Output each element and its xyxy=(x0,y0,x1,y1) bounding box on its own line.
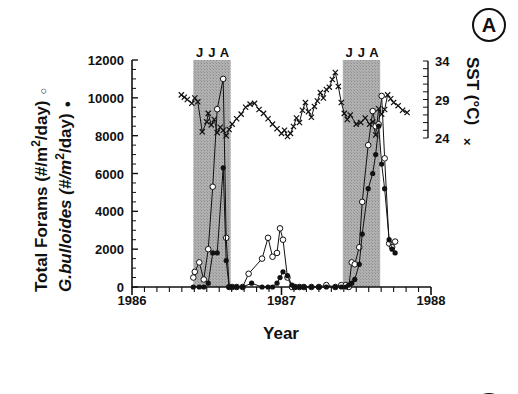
x-marker xyxy=(315,98,320,103)
x-marker xyxy=(239,112,244,117)
x-tick-label: 1986 xyxy=(118,293,147,308)
y-tick-label: 4000 xyxy=(95,204,124,219)
y-tick-label: 6000 xyxy=(95,167,124,182)
filled-circle-marker xyxy=(201,284,206,289)
right-tick-label: 29 xyxy=(435,93,449,108)
open-circle-marker xyxy=(246,271,252,277)
x-tick-label: 1988 xyxy=(417,293,446,308)
x-marker xyxy=(303,100,308,105)
month-label: J xyxy=(345,45,352,60)
filled-circle-marker xyxy=(393,250,398,255)
open-circle-marker xyxy=(277,226,283,232)
y-tick-label: 10000 xyxy=(88,91,124,106)
filled-circle-marker xyxy=(274,281,279,286)
x-marker xyxy=(327,85,332,90)
filled-circle-marker xyxy=(357,262,362,267)
filled-circle-marker xyxy=(265,284,270,289)
filled-circle-marker xyxy=(333,284,338,289)
open-circle-marker xyxy=(280,237,286,243)
open-circle-marker xyxy=(370,108,376,114)
filled-circle-marker xyxy=(240,284,245,289)
left-y-axis: 020004000600080001000012000 xyxy=(88,53,138,295)
filled-circle-marker xyxy=(191,284,196,289)
open-circle-marker xyxy=(259,256,265,262)
filled-circle-marker xyxy=(270,284,275,289)
filled-circle-marker xyxy=(360,231,365,236)
open-circle-marker xyxy=(265,235,271,241)
x-axis: 198619871988 xyxy=(118,287,446,308)
month-label: J xyxy=(196,45,203,60)
open-circle-marker xyxy=(210,184,216,190)
panel-label-a: A xyxy=(473,9,505,41)
open-circle-marker xyxy=(392,239,398,245)
filled-circle-marker xyxy=(280,269,285,274)
x-marker xyxy=(282,128,287,133)
open-circle-marker xyxy=(190,275,196,281)
x-tick-label: 1987 xyxy=(267,293,296,308)
month-labels: JJAJJA xyxy=(196,45,379,60)
right-tick-label: 34 xyxy=(435,54,450,69)
open-circle-marker xyxy=(220,76,226,82)
open-circle-marker xyxy=(223,235,229,241)
figure-panel-a: JJAJJA 020004000600080001000012000 19861… xyxy=(0,0,518,394)
filled-circle-marker xyxy=(373,152,378,157)
open-circle-marker xyxy=(192,269,198,275)
x-marker xyxy=(388,96,393,101)
filled-circle-marker xyxy=(382,186,387,191)
filled-circle-marker xyxy=(324,284,329,289)
month-label: J xyxy=(358,45,365,60)
y-tick-label: 8000 xyxy=(95,129,124,144)
month-label: A xyxy=(220,45,230,60)
filled-circle-marker xyxy=(339,284,344,289)
open-circle-marker-icon: ○ xyxy=(37,88,49,95)
right-tick-label: 24 xyxy=(435,131,450,146)
y-axis-title-total-forams: Total Forams (#/m2/day)○ xyxy=(29,88,51,292)
x-marker xyxy=(396,103,401,108)
filled-circle-marker xyxy=(197,284,202,289)
filled-circle-marker xyxy=(277,275,282,280)
filled-circle-marker xyxy=(285,273,290,278)
x-marker xyxy=(306,109,311,114)
filled-circle-marker xyxy=(259,284,264,289)
open-circle-marker xyxy=(274,250,280,256)
x-marker xyxy=(391,100,396,105)
filled-circle-marker xyxy=(206,281,211,286)
right-y-axis: 242934 xyxy=(423,54,450,146)
y-tick-label: 12000 xyxy=(88,53,124,68)
svg-text:A: A xyxy=(482,14,496,36)
x-marker-icon: × xyxy=(463,134,471,149)
filled-circle-marker-icon: ● xyxy=(61,101,73,108)
filled-circle-marker xyxy=(376,124,381,129)
filled-circle-marker xyxy=(316,284,321,289)
x-marker xyxy=(318,90,323,95)
x-marker xyxy=(270,122,275,127)
filled-circle-marker xyxy=(387,237,392,242)
filled-circle-marker xyxy=(249,281,254,286)
filled-circle-marker xyxy=(379,161,384,166)
x-marker xyxy=(330,77,335,82)
filled-circle-marker xyxy=(297,284,302,289)
open-circle-marker xyxy=(201,277,207,283)
open-circle-marker xyxy=(379,93,385,99)
x-marker xyxy=(294,115,299,120)
filled-circle-marker xyxy=(215,250,220,255)
filled-circle-marker xyxy=(292,284,297,289)
shaded-summer-bands xyxy=(193,60,380,287)
y-axis-title-sst: SST (°C) xyxy=(463,57,482,125)
y-tick-label: 2000 xyxy=(95,242,124,257)
filled-circle-marker xyxy=(352,277,357,282)
filled-circle-marker xyxy=(230,284,235,289)
open-circle-marker xyxy=(214,106,220,112)
filled-circle-marker xyxy=(301,284,306,289)
open-circle-marker xyxy=(365,142,371,148)
x-marker xyxy=(243,105,248,110)
y-axis-title-g-bulloides: G.bulloides (#/m2/day)● xyxy=(53,101,75,292)
month-label: J xyxy=(208,45,215,60)
filled-circle-marker xyxy=(224,258,229,263)
open-circle-marker xyxy=(196,260,202,266)
month-label: A xyxy=(369,45,379,60)
filled-circle-marker xyxy=(370,171,375,176)
x-marker xyxy=(265,116,270,121)
x-marker xyxy=(234,116,239,121)
open-circle-marker xyxy=(205,246,211,252)
